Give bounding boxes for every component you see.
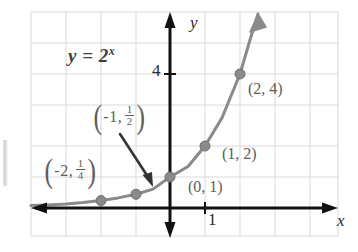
paren-open: (: [93, 103, 101, 131]
label-comma: ,: [118, 109, 122, 125]
y-tick-label-4: 4: [152, 62, 161, 79]
point-label-neg1-half: ( -1 , 1 2 ): [92, 103, 146, 131]
label-x-value: -1: [103, 109, 117, 125]
graph-figure: y = 2x y x 4 1 (2, 4) (1, 2) (0, 1) ( -1…: [0, 0, 358, 252]
label-comma: ,: [69, 163, 73, 179]
fraction-numerator: 1: [125, 104, 135, 116]
equation-base: y = 2: [68, 45, 109, 66]
y-axis-label: y: [190, 14, 198, 31]
equation-label: y = 2x: [68, 45, 115, 65]
x-tick-label-1: 1: [208, 211, 217, 228]
point-marker-neg2: [96, 196, 106, 206]
equation-exponent: x: [109, 44, 116, 58]
fraction-one-quarter: 1 4: [76, 158, 86, 182]
label-x-value: -2: [54, 163, 68, 179]
coordinate-plane: [0, 0, 358, 252]
point-label-2-4: (2, 4): [248, 81, 283, 97]
fraction-numerator: 1: [76, 158, 86, 170]
point-marker-neg1: [131, 189, 141, 199]
fraction-one-half: 1 2: [125, 104, 135, 128]
x-axis-label: x: [337, 212, 345, 229]
point-label-0-1: (0, 1): [188, 179, 223, 195]
point-label-neg2-quarter: ( -2 , 1 4 ): [43, 157, 97, 185]
y-axis-arrow-up: [165, 12, 176, 28]
paren-open: (: [44, 157, 52, 185]
paren-close: ): [88, 157, 96, 185]
point-marker-one: [200, 141, 210, 151]
paren-close: ): [137, 103, 145, 131]
fraction-denominator: 2: [125, 115, 135, 128]
point-label-1-2: (1, 2): [222, 146, 257, 162]
point-marker-two: [235, 69, 245, 79]
point-marker-zero: [165, 172, 175, 182]
fraction-denominator: 4: [76, 169, 86, 182]
x-axis-arrow-right: [322, 203, 338, 214]
